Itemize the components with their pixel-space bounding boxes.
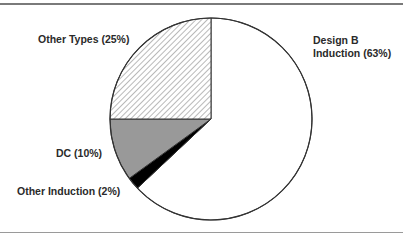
label-other-induction: Other Induction (2%): [17, 185, 120, 198]
label-design-b-line1: Design B: [313, 34, 391, 47]
label-dc: DC (10%): [56, 147, 102, 160]
label-design-b-line2: Induction (63%): [313, 47, 391, 60]
label-design-b-induction: Design B Induction (63%): [313, 34, 391, 60]
pie-slices: [110, 18, 312, 220]
label-other-types: Other Types (25%): [38, 33, 129, 46]
bottom-rule: [0, 232, 403, 233]
